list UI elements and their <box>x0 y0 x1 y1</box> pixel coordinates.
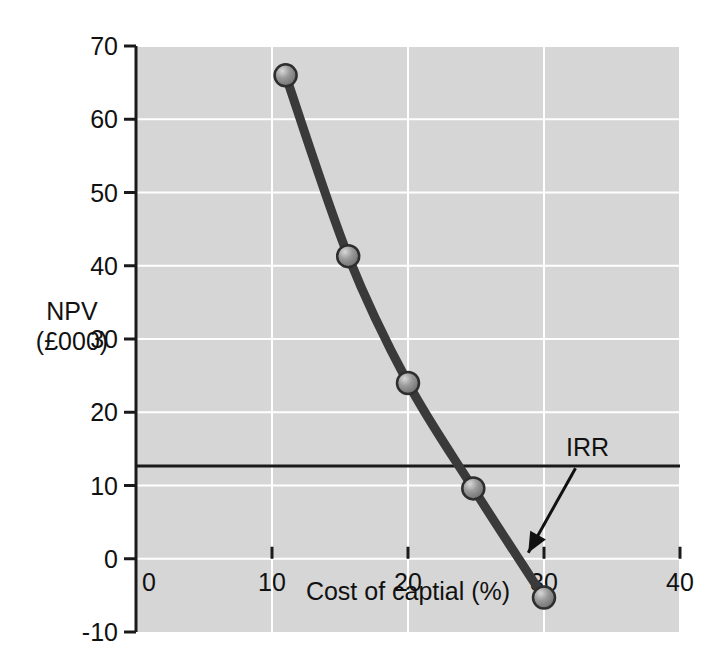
y-axis-ticks <box>124 46 136 632</box>
x-axis-tick-label: 10 <box>258 568 286 596</box>
y-axis-tick-label: 40 <box>90 252 118 280</box>
y-axis-tick-label: 20 <box>90 398 118 426</box>
y-axis-tick-label: 60 <box>90 105 118 133</box>
data-point-marker <box>462 477 484 499</box>
chart-figure: -10010203040506070 010203040 IRR Cost of… <box>0 0 716 662</box>
y-axis-tick-label: 0 <box>104 545 118 573</box>
y-axis-tick-label: 70 <box>90 32 118 60</box>
x-axis-tick-label: 40 <box>666 568 694 596</box>
x-axis-title: Cost of captial (%) <box>306 577 510 605</box>
data-point-marker <box>533 587 555 609</box>
y-axis-tick-label: -10 <box>82 618 118 646</box>
data-point-marker <box>275 64 297 86</box>
data-point-marker <box>397 372 419 394</box>
y-axis-tick-label: 50 <box>90 179 118 207</box>
data-point-marker <box>337 245 359 267</box>
npv-irr-line-chart: -10010203040506070 010203040 IRR Cost of… <box>0 0 716 662</box>
x-axis-tick-label: 0 <box>142 568 156 596</box>
y-axis-title-units: (£000) <box>36 327 108 355</box>
y-axis-title: NPV <box>46 297 98 325</box>
y-axis-tick-label: 10 <box>90 472 118 500</box>
irr-annotation-label: IRR <box>566 433 609 461</box>
